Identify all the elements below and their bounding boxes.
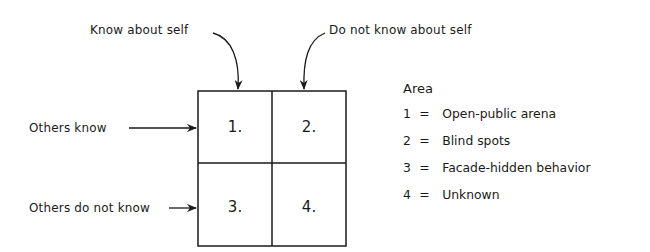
- cell-1: 1.: [198, 118, 272, 136]
- legend-item-3: 3 = Facade-hidden behavior: [403, 160, 591, 175]
- cell-3: 3.: [198, 198, 272, 216]
- legend-sep: =: [419, 187, 438, 202]
- legend-item-1: 1 = Open-public arena: [403, 106, 556, 121]
- arrow-know-about-self: [213, 33, 238, 89]
- arrow-do-not-know-about-self: [304, 33, 325, 89]
- cell-2: 2.: [272, 118, 346, 136]
- legend-key: 1: [403, 106, 415, 121]
- legend-key: 2: [403, 133, 415, 148]
- legend-text: Unknown: [442, 187, 499, 202]
- legend-sep: =: [419, 133, 438, 148]
- legend-title: Area: [403, 81, 433, 96]
- johari-grid: [198, 91, 346, 246]
- column-label-know-about-self: Know about self: [90, 22, 189, 37]
- legend-item-4: 4 = Unknown: [403, 187, 500, 202]
- column-label-do-not-know-about-self: Do not know about self: [329, 22, 472, 37]
- legend-text: Open-public arena: [442, 106, 556, 121]
- legend-sep: =: [419, 160, 438, 175]
- legend-text: Facade-hidden behavior: [442, 160, 590, 175]
- legend-item-2: 2 = Blind spots: [403, 133, 510, 148]
- legend-key: 3: [403, 160, 415, 175]
- row-label-others-do-not-know: Others do not know: [29, 200, 150, 215]
- legend-key: 4: [403, 187, 415, 202]
- row-label-others-know: Others know: [29, 120, 107, 135]
- cell-4: 4.: [272, 198, 346, 216]
- legend-sep: =: [419, 106, 438, 121]
- legend-text: Blind spots: [442, 133, 510, 148]
